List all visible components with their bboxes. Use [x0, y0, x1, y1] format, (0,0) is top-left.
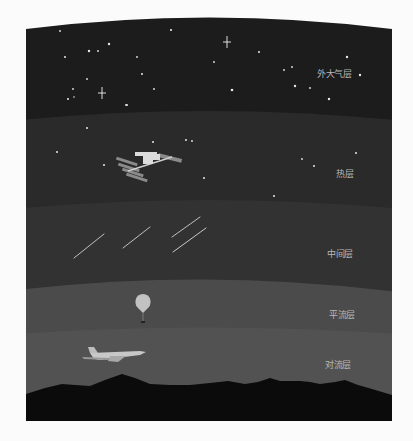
label-exosphere: 外大气层 — [317, 67, 352, 80]
atmosphere-diagram: 外大气层 热层 中间层 平流层 对流层 — [0, 0, 413, 441]
label-thermosphere: 热层 — [336, 167, 353, 180]
label-mesosphere: 中间层 — [327, 247, 353, 260]
label-troposphere: 对流层 — [325, 358, 351, 371]
label-stratosphere: 平流层 — [329, 308, 355, 321]
